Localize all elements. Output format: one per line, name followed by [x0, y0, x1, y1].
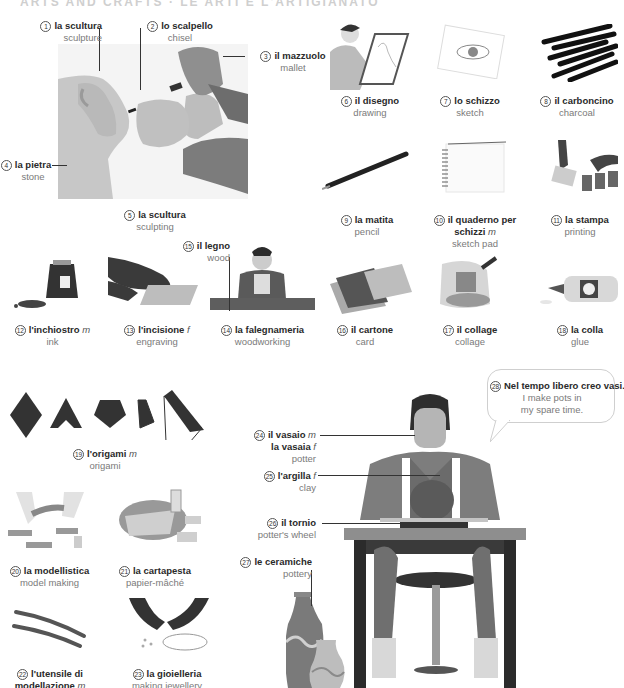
- entry-11: 11la stampa printing: [540, 214, 620, 238]
- entry-14: 14la falegnameria woodworking: [210, 324, 315, 348]
- entry-10: 10il quaderno per schizzi m sketch pad: [425, 214, 525, 250]
- papier-mache-illustration: [115, 486, 205, 546]
- entry-18: 18la colla glue: [540, 324, 620, 348]
- card-illustration: [322, 262, 412, 314]
- entry-17: 17il collage collage: [430, 324, 510, 348]
- ink-illustration: [10, 258, 90, 310]
- entry-13: 13l'incisione f engraving: [112, 324, 202, 348]
- modelling-tool-illustration: [10, 608, 90, 648]
- entry-22: 22l'utensile di modellazione m: [10, 668, 90, 688]
- entry-28: 28Nel tempo libero creo vasi. I make pot…: [490, 380, 614, 416]
- entry-21: 21la cartapesta papier-mâché: [110, 565, 200, 589]
- pottery-illustration: [286, 592, 366, 688]
- entry-15: 15il legno wood: [170, 240, 230, 264]
- leader-line: [52, 165, 67, 166]
- entry-19: 19l'origami m origami: [60, 448, 150, 472]
- entry-8: 8il carboncino charcoal: [530, 95, 624, 119]
- entry-25: 25l'argilla f clay: [228, 470, 316, 494]
- sketch-illustration: [437, 24, 507, 79]
- leader-line: [223, 56, 245, 57]
- origami-illustration: [4, 370, 204, 440]
- printing-illustration: [550, 140, 620, 195]
- entry-27: 27le ceramiche pottery: [232, 556, 312, 580]
- page-header-cropped: ARTS AND CRAFTS · LE ARTI E L'ARTIGIANAT…: [0, 0, 624, 8]
- entry-7: 7lo schizzo sketch: [430, 95, 510, 119]
- entry-5: 5la scultura sculpting: [110, 209, 200, 233]
- leader-line: [320, 435, 415, 436]
- entry-6: 6il disegno drawing: [325, 95, 415, 119]
- drawing-illustration: [330, 22, 410, 90]
- glue-illustration: [540, 272, 620, 308]
- leader-line: [322, 523, 434, 524]
- speech-bubble-tail: [490, 420, 514, 444]
- entry-3: 3il mazzuolo mallet: [248, 50, 338, 74]
- leader-line: [318, 475, 440, 476]
- entry-16: 16il cartone card: [325, 324, 405, 348]
- entry-20: 20la modellistica model making: [2, 565, 97, 589]
- entry-26: 26il tornio potter's wheel: [228, 517, 316, 541]
- jewellery-illustration: [125, 596, 210, 656]
- entry-23: 23la gioielleria making jewellery: [122, 668, 212, 688]
- model-making-illustration: [4, 490, 89, 550]
- sketch-pad-illustration: [438, 140, 513, 195]
- collage-illustration: [432, 256, 502, 314]
- entry-9: 9la matita pencil: [322, 214, 412, 238]
- leader-line: [229, 257, 230, 311]
- charcoal-illustration: [540, 24, 618, 82]
- pencil-illustration: [322, 148, 412, 190]
- entry-2: 2lo scalpello chisel: [140, 20, 220, 44]
- page-title: ARTS AND CRAFTS · LE ARTI E L'ARTIGIANAT…: [20, 0, 380, 8]
- entry-4: 4la pietra stone: [0, 159, 52, 183]
- entry-12: 12l'inchiostro m ink: [5, 324, 100, 348]
- entry-1: 1la scultura sculpture: [10, 20, 102, 44]
- sculpture-illustration: [58, 44, 248, 199]
- entry-24: 24il vasaio m la vasaia f potter: [228, 429, 316, 465]
